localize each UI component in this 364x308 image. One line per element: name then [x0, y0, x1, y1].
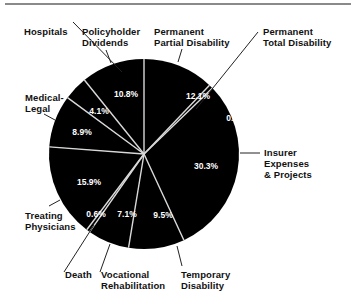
- slice-percent-label: 7.1%: [117, 209, 136, 219]
- slice-percent-label: 10.8%: [114, 89, 138, 99]
- leader-vocational: [100, 244, 110, 272]
- leader-treating: [49, 200, 60, 206]
- label-perm-total: Permanent Total Disability: [263, 26, 331, 48]
- label-line: Legal: [25, 103, 64, 114]
- label-insurer: Insurer Expenses & Projects: [264, 147, 312, 180]
- label-perm-partial: Permanent Partial Disability: [154, 26, 230, 48]
- slice-percent-label: 15.9%: [77, 177, 101, 187]
- label-line: Physicians: [25, 221, 76, 232]
- slice-percent-label: 12.1%: [186, 91, 210, 101]
- slice-percent-label: 0.6%: [86, 209, 105, 219]
- label-treating: Treating Physicians: [25, 210, 76, 232]
- label-line: Permanent: [263, 26, 331, 37]
- label-vocational: Vocational Rehabilitation: [101, 269, 165, 291]
- label-medical-legal: Medical- Legal: [25, 92, 64, 114]
- label-line: Expenses: [264, 158, 312, 169]
- slice-percent-label: 30.3%: [194, 161, 218, 171]
- label-death: Death: [65, 269, 92, 280]
- leader-temporary: [177, 246, 182, 266]
- leader-perm-partial: [178, 49, 182, 62]
- label-policyholder: Policyholder Dividends: [82, 26, 140, 48]
- leader-death: [64, 225, 94, 272]
- label-line: Rehabilitation: [101, 280, 165, 291]
- label-line: Death: [65, 269, 92, 280]
- label-line: Dividends: [82, 37, 140, 48]
- label-line: Hospitals: [24, 26, 68, 37]
- label-line: Disability: [181, 280, 230, 291]
- label-line: Total Disability: [263, 37, 331, 48]
- slice-percent-label: 0.7%: [226, 113, 245, 123]
- label-line: & Projects: [264, 169, 312, 180]
- label-line: Temporary: [181, 269, 230, 280]
- label-line: Vocational: [101, 269, 165, 280]
- label-line: Treating: [25, 210, 76, 221]
- label-line: Policyholder: [82, 26, 140, 37]
- label-line: Medical-: [25, 92, 64, 103]
- leader-medical-legal: [44, 114, 55, 120]
- slice-percent-label: 9.5%: [153, 210, 172, 220]
- label-line: Insurer: [264, 147, 312, 158]
- slice-percent-label: 4.1%: [89, 106, 108, 116]
- label-temporary: Temporary Disability: [181, 269, 230, 291]
- label-hospitals: Hospitals: [24, 26, 68, 37]
- slice-percent-label: 8.9%: [72, 127, 91, 137]
- label-line: Permanent: [154, 26, 230, 37]
- label-line: Partial Disability: [154, 37, 230, 48]
